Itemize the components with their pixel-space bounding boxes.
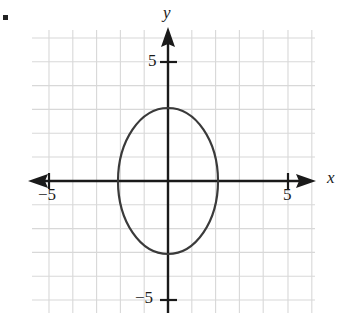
coordinate-plane-svg [0, 0, 342, 313]
y-axis-arrow-up [161, 27, 175, 47]
x-tick-label-neg5: −5 [38, 186, 56, 203]
y-tick-label-pos5: 5 [148, 52, 157, 69]
axis-lines [44, 42, 308, 313]
x-axis-arrow-right [296, 174, 316, 188]
grid-lines [32, 30, 315, 313]
x-axis-label: x [327, 169, 335, 186]
x-tick-label-pos5: 5 [283, 186, 292, 203]
y-axis-label: y [163, 4, 171, 21]
y-tick-label-neg5: −5 [135, 289, 153, 306]
graph-figure: y x −5 5 5 −5 [0, 0, 342, 313]
